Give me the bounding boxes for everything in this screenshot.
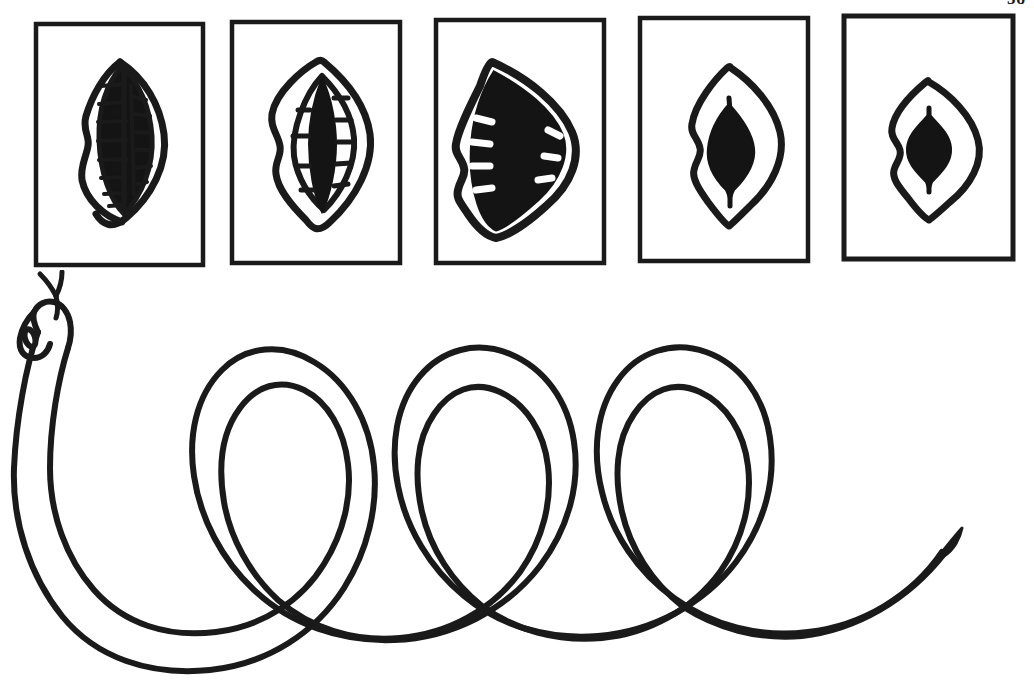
snake-inner-edge bbox=[50, 348, 944, 639]
panel-strip-svg bbox=[0, 0, 1034, 275]
snake-tongue-fork-left bbox=[40, 274, 56, 296]
snake-body bbox=[14, 332, 962, 671]
snake-tongue-forked bbox=[40, 272, 62, 318]
panel-strip bbox=[0, 0, 1034, 275]
page-number: 58 bbox=[1007, 0, 1026, 7]
panel-2 bbox=[232, 22, 400, 263]
panel-5 bbox=[844, 16, 1013, 259]
panel-3 bbox=[436, 20, 604, 263]
snake-tail-tip bbox=[942, 528, 962, 556]
snake-tongue-base bbox=[56, 296, 58, 318]
panel-1 bbox=[36, 24, 203, 265]
snake-head-outline bbox=[33, 301, 71, 348]
figure-root: 58 Snake gape sequence and coiled serpen… bbox=[0, 0, 1034, 689]
snake-figure bbox=[0, 270, 1034, 689]
snake-eye bbox=[22, 328, 37, 348]
snake-outer-edge bbox=[14, 332, 942, 671]
panel-4 bbox=[640, 18, 808, 261]
snake-svg bbox=[0, 270, 1034, 689]
snake-tongue-fork-right bbox=[56, 272, 62, 296]
